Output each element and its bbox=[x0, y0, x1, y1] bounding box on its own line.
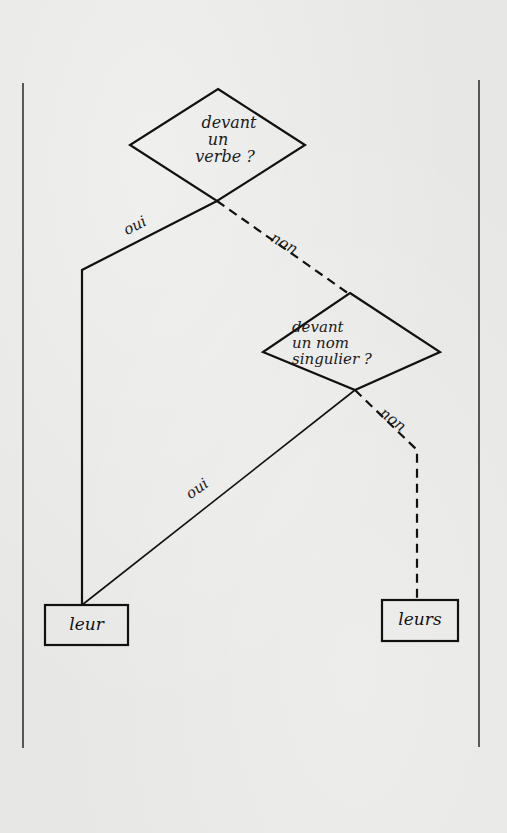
decision-text-verbe: devant un verbe ? bbox=[160, 115, 276, 165]
decision-text-nom-singulier: devant un nom singulier ? bbox=[292, 320, 442, 367]
decision-1-line-3: verbe ? bbox=[160, 149, 276, 166]
outcome-label-leur: leur bbox=[45, 616, 128, 633]
outcome-label-leurs: leurs bbox=[382, 611, 458, 628]
edge-oui-1 bbox=[82, 201, 217, 605]
decision-2-line-3: singulier ? bbox=[292, 352, 442, 368]
edge-oui-2 bbox=[82, 390, 355, 605]
